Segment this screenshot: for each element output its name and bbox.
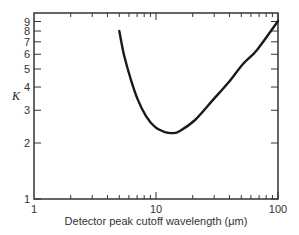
- x-tick-label: 100: [269, 203, 287, 215]
- y-tick-label: 3: [24, 104, 30, 116]
- y-tick-label: 1: [24, 193, 30, 205]
- y-tick-label: 9: [24, 16, 30, 28]
- y-tick-label: 4: [24, 81, 30, 93]
- y-tick-label: 7: [24, 36, 30, 48]
- k-vs-wavelength-chart: 110100 123456789 K Detector peak cutoff …: [0, 0, 299, 235]
- x-tick-label: 1: [31, 203, 37, 215]
- y-tick-label: 2: [24, 137, 30, 149]
- y-tick-labels: 123456789: [24, 16, 30, 205]
- plot-frame: [34, 13, 278, 199]
- x-tick-label: 10: [150, 203, 162, 215]
- x-tick-labels: 110100: [31, 203, 287, 215]
- y-axis-label: K: [11, 89, 21, 103]
- x-minor-ticks-top: [71, 13, 278, 20]
- y-ticks: [34, 22, 41, 199]
- y-tick-label: 5: [24, 63, 30, 75]
- x-minor-ticks: [71, 192, 278, 199]
- k-curve: [119, 21, 278, 133]
- y-ticks-right: [271, 22, 278, 199]
- x-axis-label: Detector peak cutoff wavelength (μm): [65, 215, 248, 227]
- y-tick-label: 6: [24, 48, 30, 60]
